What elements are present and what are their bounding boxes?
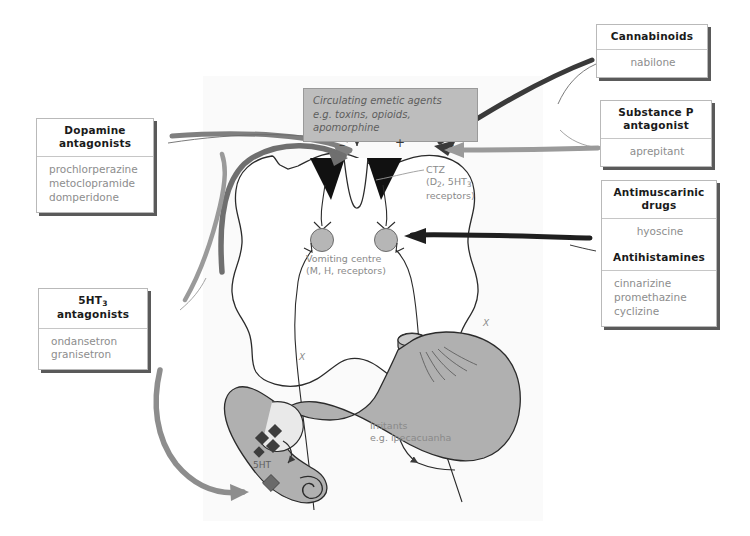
5ht3-header-line-2: antagonists <box>43 308 143 321</box>
5ht3-header-text: 5HT <box>78 294 102 306</box>
gut-serotonin-label: 5HT <box>253 460 271 470</box>
dopamine-header-line-2: antagonists <box>41 137 149 150</box>
antihistamines-box-header: Antihistamines <box>602 246 716 271</box>
emetic-line-2: e.g. toxins, opioids, apomorphine <box>313 108 468 135</box>
antimuscarinic-header-line-1: Antimuscarinic <box>606 186 712 199</box>
irritants-label: Irritants e.g. ipecacuanha <box>370 420 451 445</box>
antimuscarinic-antihistamines-box[interactable]: Antimuscarinic drugs hyoscine Antihistam… <box>601 180 717 327</box>
ctz-receptors-tail: receptors) <box>426 190 475 202</box>
substance-p-box-drugs: aprepitant <box>601 139 711 166</box>
vomiting-centre-receptors: (M, H, receptors) <box>306 265 386 277</box>
substance-p-header-line-2: antagonist <box>605 119 707 132</box>
antihistamines-header-line-1: Antihistamines <box>606 251 712 264</box>
antihistamines-box-drugs: cinnarizine promethazine cyclizine <box>602 271 716 326</box>
drug-item: nabilone <box>609 56 697 70</box>
ctz-5ht-sub: 3 <box>467 180 472 189</box>
leader-antihistamines <box>570 245 596 251</box>
minus-sign-right: – <box>448 138 454 152</box>
irritants-example: e.g. ipecacuanha <box>370 432 451 444</box>
minus-sign-left: – <box>339 138 345 152</box>
plus-sign-middle: + <box>395 136 405 150</box>
cannabinoids-header-line-1: Cannabinoids <box>601 30 703 43</box>
drug-item: promethazine <box>614 291 706 305</box>
5ht3-box-drugs: ondansetron granisetron <box>39 329 147 370</box>
drug-item: domperidone <box>49 191 143 205</box>
vagus-nerve-label-left: X <box>299 352 305 362</box>
drug-item: granisetron <box>51 348 137 362</box>
irritants-title: Irritants <box>370 420 451 432</box>
drug-item: cyclizine <box>614 305 706 319</box>
dopamine-box-header: Dopamine antagonists <box>37 119 153 157</box>
drug-item: hyoscine <box>614 225 706 239</box>
emetic-line-1: Circulating emetic agents <box>313 94 468 108</box>
vagus-nerve-label-right: X <box>483 318 489 328</box>
vomiting-centre-nucleus-left <box>311 229 334 252</box>
drug-item: metoclopramide <box>49 177 143 191</box>
drug-item: cinnarizine <box>614 277 706 291</box>
substance-p-box-header: Substance P antagonist <box>601 101 711 139</box>
5ht3-header-sub: 3 <box>102 299 107 308</box>
circulating-emetic-agents-label: Circulating emetic agents e.g. toxins, o… <box>303 88 478 142</box>
5ht3-header-line-1: 5HT3 <box>43 294 143 308</box>
vomiting-centre-title: Vomiting centre <box>306 253 386 265</box>
ctz-label: CTZ (D2, 5HT3 receptors) <box>426 164 475 202</box>
antimuscarinic-box-header: Antimuscarinic drugs <box>602 181 716 219</box>
cannabinoids-box-header: Cannabinoids <box>597 25 707 50</box>
leader-substance-p <box>560 130 600 148</box>
drug-item: prochlorperazine <box>49 163 143 177</box>
antimuscarinic-box-drugs: hyoscine <box>602 219 716 246</box>
figure-canvas: Circulating emetic agents e.g. toxins, o… <box>0 0 750 536</box>
ctz-d2-prefix: (D <box>426 176 437 187</box>
vomiting-centre-nucleus-right <box>375 229 398 252</box>
dopamine-antagonists-box[interactable]: Dopamine antagonists prochlorperazine me… <box>36 118 154 213</box>
dopamine-box-drugs: prochlorperazine metoclopramide domperid… <box>37 157 153 212</box>
drug-item: aprepitant <box>613 145 701 159</box>
ctz-5ht-prefix: , 5HT <box>442 176 467 187</box>
antimuscarinic-header-line-2: drugs <box>606 199 712 212</box>
ctz-title: CTZ <box>426 164 475 176</box>
5ht3-box-header: 5HT3 antagonists <box>39 289 147 329</box>
vomiting-centre-label: Vomiting centre (M, H, receptors) <box>306 253 386 278</box>
cannabinoids-box-drugs: nabilone <box>597 50 707 77</box>
dopamine-header-line-1: Dopamine <box>41 124 149 137</box>
5ht3-antagonists-box[interactable]: 5HT3 antagonists ondansetron granisetron <box>38 288 148 370</box>
substance-p-header-line-1: Substance P <box>605 106 707 119</box>
ctz-receptors: (D2, 5HT3 <box>426 176 475 190</box>
drug-item: ondansetron <box>51 335 137 349</box>
substance-p-antagonist-box[interactable]: Substance P antagonist aprepitant <box>600 100 712 167</box>
arrow-substance-p <box>450 148 598 150</box>
cannabinoids-box[interactable]: Cannabinoids nabilone <box>596 24 708 78</box>
